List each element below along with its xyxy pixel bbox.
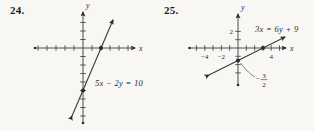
line-5x-2y-10: [72, 20, 113, 116]
y-intercept-point-25: [236, 58, 240, 62]
x-tick-label-neg4: −4: [201, 53, 209, 61]
y-intercept-point-24: [81, 88, 85, 92]
x-axis-label-25: x: [289, 44, 294, 53]
y-axis-label-25: y: [240, 3, 245, 12]
problem-number-24: 24.: [10, 4, 24, 16]
x-tick-label-neg2: −2: [218, 53, 226, 61]
x-intercept-point-25: [261, 46, 265, 50]
equation-label-25: 3x = 6y + 9: [254, 24, 299, 34]
x-tick-label-4: 4: [269, 53, 273, 61]
graph-24: y x 5x − 2y = 10: [28, 0, 150, 131]
y-intercept-annotation: − 3 2: [256, 72, 267, 89]
equation-label-24: 5x − 2y = 10: [95, 78, 144, 88]
x-axis-label-24: x: [138, 44, 143, 53]
annotation-minus-sign: −: [256, 75, 260, 83]
annotation-leader-line: [241, 63, 256, 77]
graph-25: −4 −2 4 2 − 3 2 y x 3x = 6y + 9: [185, 0, 314, 110]
annotation-denominator: 2: [262, 81, 266, 89]
y-axis-label-24: y: [85, 1, 90, 10]
y-tick-label-2: 2: [230, 28, 234, 36]
annotation-numerator: 3: [262, 72, 266, 80]
x-intercept-point-24: [99, 46, 103, 50]
problem-number-25: 25.: [164, 4, 178, 16]
